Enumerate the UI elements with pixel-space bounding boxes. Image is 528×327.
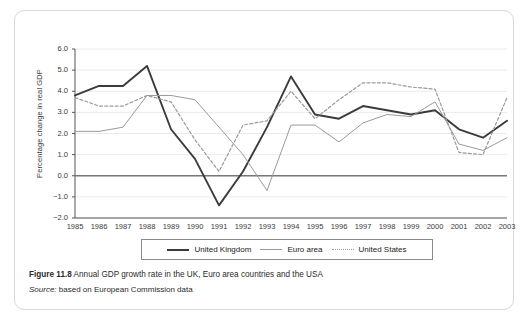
chart-legend: United KingdomEuro areaUnited States [141, 239, 433, 260]
legend-label: Euro area [287, 245, 322, 254]
figure-caption-text: Annual GDP growth rate in the UK, Euro a… [74, 270, 323, 279]
chart-area: Percentage change in real GDP −2.0−1.00.… [15, 11, 515, 256]
plot-svg [15, 11, 515, 256]
caption-block: Figure 11.8 Annual GDP growth rate in th… [29, 269, 499, 294]
series-line-united-states [75, 83, 507, 172]
gridlines [75, 49, 507, 218]
legend-item-euro-area: Euro area [260, 245, 322, 254]
data-series-group [75, 66, 507, 205]
source-text: based on European Commission data [59, 285, 193, 294]
series-line-united-kingdom [75, 66, 507, 205]
legend-swatch-icon [260, 249, 282, 250]
legend-item-united-kingdom: United Kingdom [167, 245, 251, 254]
legend-label: United Kingdom [194, 245, 251, 254]
figure-caption: Figure 11.8 Annual GDP growth rate in th… [29, 269, 499, 280]
legend-swatch-icon [167, 249, 189, 251]
legend-item-united-states: United States [332, 245, 407, 254]
legend-swatch-icon [332, 249, 354, 250]
figure-number: Figure 11.8 [29, 270, 72, 279]
figure-source: Source: based on European Commission dat… [29, 285, 499, 294]
legend-label: United States [359, 245, 407, 254]
source-label: Source: [29, 285, 57, 294]
figure-card: Percentage change in real GDP −2.0−1.00.… [14, 10, 514, 310]
